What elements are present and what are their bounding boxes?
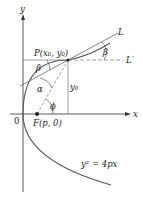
y0-label: y₀ [69,82,79,92]
line-L-label: L [117,27,124,37]
phi-label: ϕ [50,101,56,111]
alpha-label: α [37,84,43,94]
equation-label: y² = 4px [80,159,118,169]
x-axis-label: x [133,109,138,119]
point-P-label: P(x₀, y₀) [33,48,68,58]
x-axis-arrow-icon [125,112,131,116]
origin-label: 0 [14,116,19,126]
beta-right-label: β [102,47,108,57]
focus-label: F(p, 0) [32,118,62,128]
beta-left-arc [47,60,50,70]
focus-point [35,112,39,116]
line-L-prime-label: L′ [125,55,134,65]
beta-left-label: β [35,63,41,73]
parabola-diagram: y x 0 P(x₀, y₀) F(p, 0) y² = 4px L L′ β … [0,0,143,200]
y-axis-arrow-icon [21,14,25,20]
point-P [66,58,69,61]
y-axis-label: y [19,4,25,14]
